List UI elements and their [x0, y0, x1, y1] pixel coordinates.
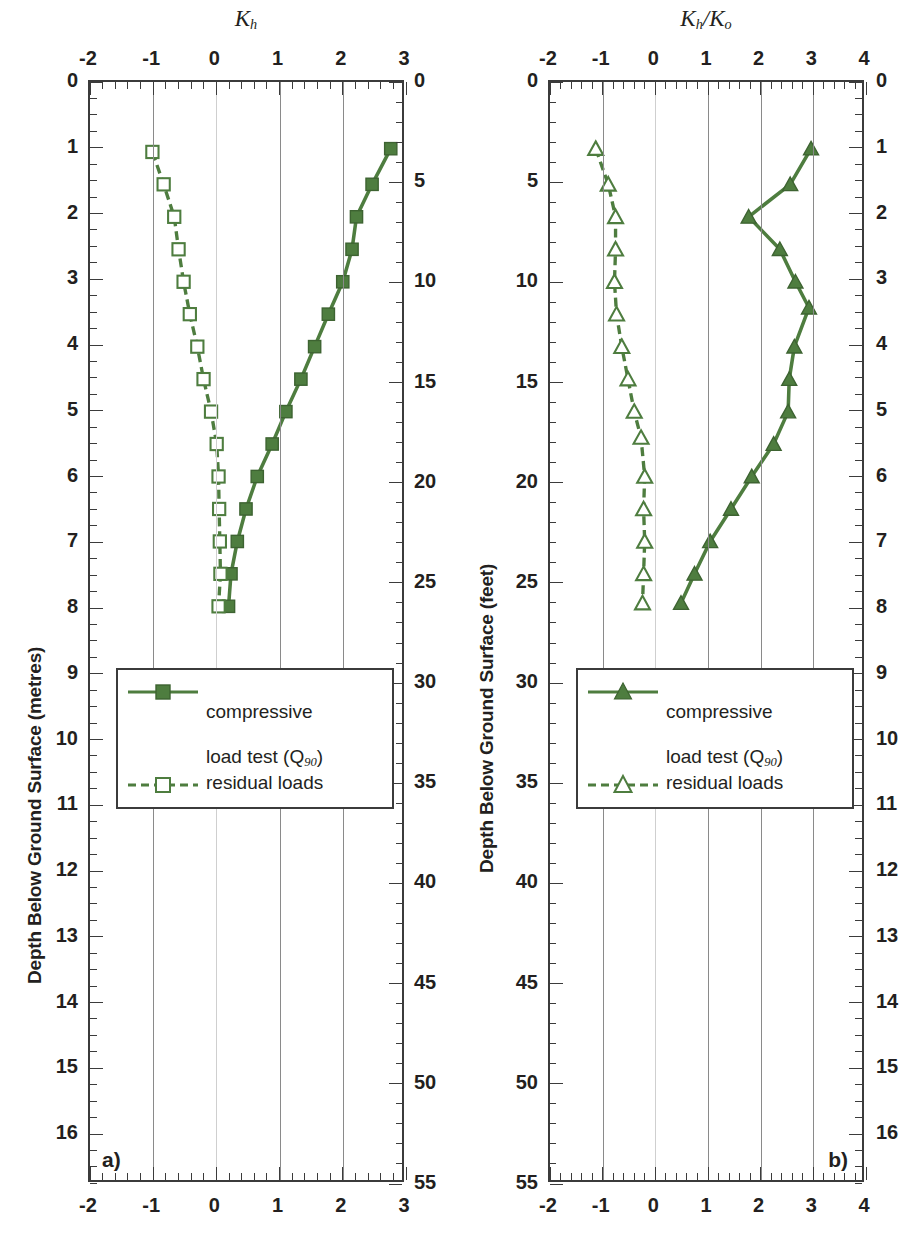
tick-y-feet-minor: [550, 262, 556, 263]
xtick-label-top--2: -2: [539, 47, 557, 70]
tick-y-feet-0: [389, 82, 402, 83]
tick-y-metres-minor: [855, 131, 862, 132]
tick-x-minor: [165, 1173, 166, 1180]
tick-y-metres-minor: [855, 180, 862, 181]
tick-y-metres-minor: [90, 460, 97, 461]
tick-y-feet-5: [550, 182, 563, 183]
tick-y-metres-minor: [90, 624, 97, 625]
legend-item-compressive: compressive load test (Q90): [126, 679, 382, 770]
tick-x-minor: [304, 1173, 305, 1180]
tick-y-metres-12: [849, 871, 862, 872]
data-point-residual: [177, 276, 189, 288]
tick-x-major--1: [602, 82, 603, 95]
tick-x-minor: [718, 1173, 719, 1180]
ytick-label-feet-0: 0: [414, 69, 462, 92]
tick-y-feet-minor: [550, 542, 556, 543]
tick-x-minor: [317, 82, 318, 89]
tick-x-major-1: [708, 82, 709, 95]
tick-y-feet-minor: [396, 743, 402, 744]
data-point-compressive: [322, 308, 334, 320]
tick-y-feet-minor: [550, 1043, 556, 1044]
tick-y-metres-5: [849, 410, 862, 411]
xtick-label-top--2: -2: [79, 47, 97, 70]
data-point-residual: [197, 373, 209, 385]
ytick-label-feet-55: 55: [490, 1171, 538, 1194]
tick-x-minor: [613, 1173, 614, 1180]
tick-y-metres-9: [90, 673, 103, 674]
tick-y-feet-minor: [550, 963, 556, 964]
data-point-residual: [191, 341, 203, 353]
tick-y-metres-minor: [90, 887, 97, 888]
data-point-residual: [627, 404, 642, 418]
ytick-label-metres-9: 9: [30, 660, 78, 683]
tick-x-minor: [560, 1173, 561, 1180]
tick-x-minor: [834, 1173, 835, 1180]
tick-y-feet-minor: [550, 342, 556, 343]
tick-y-metres-minor: [855, 525, 862, 526]
tick-x-major--2: [550, 82, 551, 95]
tick-y-feet-minor: [550, 743, 556, 744]
tick-x-minor: [676, 1173, 677, 1180]
tick-y-metres-2: [90, 213, 103, 214]
panel-b-data-layer: [550, 82, 862, 1180]
legend-marker-filled-triangle: [586, 679, 660, 705]
legend-label-compressive: compressive load test (Q90): [666, 679, 783, 770]
tick-x-minor: [393, 1173, 394, 1180]
xtick-label-bottom--1: -1: [592, 1194, 610, 1217]
tick-y-feet-minor: [396, 342, 402, 343]
tick-y-metres-minor: [855, 657, 862, 658]
tick-y-feet-10: [550, 282, 563, 283]
tick-y-feet-25: [389, 582, 402, 583]
tick-x-minor: [254, 1173, 255, 1180]
tick-y-feet-minor: [396, 903, 402, 904]
tick-x-minor: [697, 1173, 698, 1180]
tick-x-minor: [203, 82, 204, 89]
ytick-label-metres-2: 2: [30, 200, 78, 223]
tick-x-major-3: [406, 82, 407, 95]
tick-x-minor: [771, 82, 772, 89]
tick-x-minor: [686, 82, 687, 89]
xtick-label-bottom-4: 4: [858, 1194, 869, 1217]
ytick-label-feet-40: 40: [490, 870, 538, 893]
tick-y-metres-minor: [90, 262, 97, 263]
data-point-compressive: [308, 341, 320, 353]
tick-x-minor: [729, 1173, 730, 1180]
ytick-label-metres-12: 12: [30, 858, 78, 881]
tick-x-minor: [676, 82, 677, 89]
tick-x-minor: [844, 82, 845, 89]
tick-y-metres-3: [849, 279, 862, 280]
data-point-compressive: [781, 404, 796, 418]
ytick-label-metres-16: 16: [876, 1121, 924, 1144]
tick-x-minor: [855, 82, 856, 89]
tick-y-feet-minor: [550, 723, 556, 724]
ytick-label-feet-15: 15: [490, 369, 538, 392]
data-point-residual: [608, 210, 623, 224]
panel-b-title: Kh/Ko: [680, 6, 731, 33]
tick-y-metres-minor: [855, 887, 862, 888]
tick-y-metres-minor: [855, 575, 862, 576]
tick-y-metres-minor: [90, 903, 97, 904]
tick-y-feet-minor: [396, 863, 402, 864]
tick-y-metres-minor: [90, 509, 97, 510]
tick-y-feet-minor: [550, 422, 556, 423]
tick-y-metres-8: [90, 608, 103, 609]
xtick-label-bottom-2: 2: [335, 1194, 346, 1217]
panel-b-plot-area: b): [548, 80, 864, 1182]
tick-x-major-4: [866, 82, 867, 95]
tick-y-metres-minor: [90, 1150, 97, 1151]
tick-x-minor: [634, 82, 635, 89]
tick-y-metres-7: [90, 542, 103, 543]
tick-y-metres-minor: [90, 755, 97, 756]
tick-x-minor: [802, 1173, 803, 1180]
tick-y-feet-minor: [550, 442, 556, 443]
data-point-residual: [212, 470, 224, 482]
tick-y-feet-minor: [396, 1103, 402, 1104]
data-point-residual: [637, 534, 652, 548]
data-point-compressive: [280, 405, 292, 417]
tick-y-metres-minor: [90, 197, 97, 198]
tick-x-minor: [592, 1173, 593, 1180]
tick-x-major--2: [550, 1167, 551, 1180]
tick-x-minor: [571, 82, 572, 89]
tick-y-metres-minor: [855, 838, 862, 839]
data-point-residual: [635, 596, 650, 610]
